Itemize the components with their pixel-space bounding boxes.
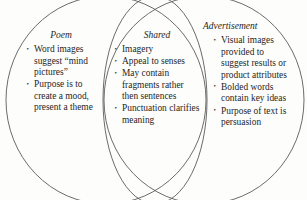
- list-item: Appeal to senses: [114, 56, 200, 68]
- list-item: May contain fragments rather then senten…: [114, 68, 200, 103]
- list-item: Bolded words contain key ideas: [213, 82, 287, 105]
- venn-diagram-canvas: Poem Word images suggest “mind pictures”…: [0, 0, 307, 200]
- bullet-list-advertisement: Visual images provided to suggest result…: [203, 35, 287, 129]
- venn-region-advertisement: Advertisement Visual images provided to …: [203, 21, 287, 129]
- list-item: Visual images provided to suggest result…: [213, 35, 287, 81]
- venn-region-poem: Poem Word images suggest “mind pictures”…: [26, 30, 100, 115]
- list-item: Purpose of text is persuasion: [213, 106, 287, 129]
- list-item: Punctuation clarifies meaning: [114, 103, 200, 126]
- list-item: Word images suggest “mind pictures”: [26, 44, 100, 79]
- bullet-list-shared: Imagery Appeal to senses May contain fra…: [114, 44, 200, 127]
- region-heading-poem: Poem: [26, 30, 100, 41]
- region-heading-shared: Shared: [114, 30, 200, 41]
- bullet-list-poem: Word images suggest “mind pictures” Purp…: [26, 44, 100, 114]
- list-item: Purpose is to create a mood, present a t…: [26, 79, 100, 114]
- region-heading-advertisement: Advertisement: [203, 21, 287, 32]
- venn-region-shared: Shared Imagery Appeal to senses May cont…: [114, 30, 200, 127]
- list-item: Imagery: [114, 44, 200, 56]
